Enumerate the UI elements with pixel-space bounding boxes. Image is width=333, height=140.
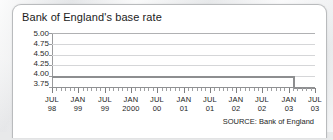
x-tick-minor xyxy=(201,88,202,91)
y-tick-mark xyxy=(49,33,52,34)
x-tick-label: JAN01 xyxy=(177,95,192,114)
x-tick-label-month: JAN xyxy=(282,95,297,104)
x-tick-major xyxy=(157,88,158,93)
x-tick-minor xyxy=(227,88,228,91)
x-tick-label: JAN2000 xyxy=(122,95,140,114)
x-tick-minor xyxy=(170,88,171,91)
x-tick-minor xyxy=(197,88,198,91)
x-tick-major xyxy=(78,88,79,93)
x-tick-label-year: 2000 xyxy=(122,104,140,114)
x-tick-label-month: JAN xyxy=(229,95,244,104)
chart-card: Bank of England's base rate 5.00 4.75 4.… xyxy=(12,4,327,132)
x-tick-minor xyxy=(100,88,101,91)
x-tick-label-month: JUL xyxy=(98,95,112,104)
x-tick-major xyxy=(262,88,263,93)
x-tick-label-year: 03 xyxy=(282,104,297,114)
x-tick-minor xyxy=(192,88,193,91)
x-tick-major xyxy=(52,88,53,93)
x-tick-minor xyxy=(175,88,176,91)
x-tick-label: JAN02 xyxy=(229,95,244,114)
x-tick-major xyxy=(210,88,211,93)
x-tick-minor xyxy=(214,88,215,91)
x-tick-label-year: 00 xyxy=(150,104,164,114)
x-tick-major xyxy=(289,88,290,93)
x-tick-minor xyxy=(267,88,268,91)
x-tick-label-month: JAN xyxy=(122,95,140,104)
x-tick-major xyxy=(131,88,132,93)
x-tick-label-month: JUL xyxy=(308,95,322,104)
x-tick-label-month: JAN xyxy=(177,95,192,104)
x-tick-minor xyxy=(74,88,75,91)
x-tick-label: JUL98 xyxy=(45,95,59,114)
x-tick-minor xyxy=(293,88,294,91)
x-tick-label-year: 99 xyxy=(98,104,112,114)
x-tick-label-year: 02 xyxy=(255,104,269,114)
y-tick-mark xyxy=(49,65,52,66)
y-tick-label: 3.75 xyxy=(33,80,49,88)
x-tick-minor xyxy=(65,88,66,91)
x-tick-minor xyxy=(258,88,259,91)
x-tick-minor xyxy=(109,88,110,91)
y-tick-label: 4.25 xyxy=(33,60,49,68)
x-tick-minor xyxy=(83,88,84,91)
x-tick-minor xyxy=(188,88,189,91)
x-tick-minor xyxy=(91,88,92,91)
x-tick-minor xyxy=(276,88,277,91)
x-tick-minor xyxy=(162,88,163,91)
x-tick-minor xyxy=(135,88,136,91)
x-tick-minor xyxy=(240,88,241,91)
x-tick-minor xyxy=(306,88,307,91)
source-note: SOURCE: Bank of England xyxy=(223,117,314,126)
series-segment-horizontal xyxy=(52,76,289,78)
series-segment-horizontal xyxy=(289,76,293,78)
x-tick-label: JUL01 xyxy=(203,95,217,114)
x-tick-minor xyxy=(271,88,272,91)
x-tick-minor xyxy=(122,88,123,91)
x-tick-label: JUL99 xyxy=(98,95,112,114)
x-tick-minor xyxy=(179,88,180,91)
x-tick-minor xyxy=(118,88,119,91)
x-tick-label-year: 02 xyxy=(229,104,244,114)
x-tick-minor xyxy=(280,88,281,91)
y-tick-label: 4.00 xyxy=(33,70,49,78)
x-tick-minor xyxy=(254,88,255,91)
x-tick-label-year: 01 xyxy=(203,104,217,114)
plot-area xyxy=(52,33,315,87)
y-axis-spine xyxy=(52,33,53,87)
x-tick-minor xyxy=(302,88,303,91)
series-segment-vertical xyxy=(293,76,295,87)
y-tick-mark xyxy=(49,55,52,56)
x-tick-major xyxy=(236,88,237,93)
x-tick-label-year: 01 xyxy=(177,104,192,114)
x-tick-minor xyxy=(70,88,71,91)
x-tick-label: JUL02 xyxy=(255,95,269,114)
gridline xyxy=(52,55,315,56)
x-tick-label-month: JAN xyxy=(71,95,86,104)
x-tick-minor xyxy=(56,88,57,91)
x-tick-label: JAN03 xyxy=(282,95,297,114)
page-title: Bank of England's base rate xyxy=(22,11,162,23)
x-tick-minor xyxy=(245,88,246,91)
x-tick-minor xyxy=(61,88,62,91)
x-tick-minor xyxy=(223,88,224,91)
x-tick-label: JUL00 xyxy=(150,95,164,114)
x-tick-minor xyxy=(127,88,128,91)
x-tick-major xyxy=(184,88,185,93)
x-tick-label: JAN99 xyxy=(71,95,86,114)
x-tick-minor xyxy=(87,88,88,91)
x-tick-minor xyxy=(284,88,285,91)
x-axis-labels: JUL98JAN99JUL99JAN2000JUL00JAN01JUL01JAN… xyxy=(52,95,315,117)
x-tick-major xyxy=(315,88,316,93)
x-tick-major xyxy=(105,88,106,93)
gridline xyxy=(52,65,315,66)
x-tick-minor xyxy=(205,88,206,91)
x-tick-label-month: JUL xyxy=(150,95,164,104)
x-tick-label-month: JUL xyxy=(45,95,59,104)
x-tick-minor xyxy=(113,88,114,91)
x-tick-label-month: JUL xyxy=(255,95,269,104)
gridline xyxy=(52,44,315,45)
x-tick-minor xyxy=(249,88,250,91)
x-axis xyxy=(52,87,315,94)
x-tick-minor xyxy=(311,88,312,91)
gridline xyxy=(52,33,315,34)
